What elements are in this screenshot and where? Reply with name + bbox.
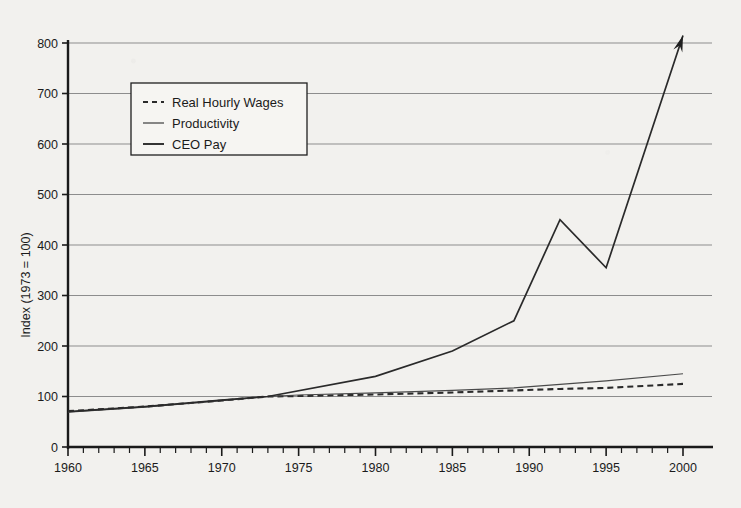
x-tick-label: 1980 xyxy=(362,461,390,475)
series-line-real-hourly-wages xyxy=(68,384,683,411)
legend-label-productivity: Productivity xyxy=(172,116,240,131)
y-tick-label: 100 xyxy=(37,390,58,404)
legend-label-real-hourly-wages: Real Hourly Wages xyxy=(172,95,284,110)
y-tick-label: 200 xyxy=(37,340,58,354)
x-tick-label: 1990 xyxy=(515,461,543,475)
y-axis: 0100200300400500600700800 xyxy=(37,37,68,455)
x-tick-label: 1965 xyxy=(131,461,159,475)
line-chart: 0100200300400500600700800 19601965197019… xyxy=(0,0,741,508)
x-tick-label: 1960 xyxy=(54,461,82,475)
y-tick-label: 300 xyxy=(37,289,58,303)
y-tick-label: 0 xyxy=(51,441,58,455)
y-tick-label: 600 xyxy=(37,138,58,152)
x-tick-label: 2000 xyxy=(669,461,697,475)
x-tick-label: 1970 xyxy=(208,461,236,475)
legend: Real Hourly WagesProductivityCEO Pay xyxy=(131,83,307,155)
y-axis-label: Index (1973 = 100) xyxy=(19,232,33,337)
y-tick-label: 400 xyxy=(37,239,58,253)
x-axis: 196019651970197519801985199019952000 xyxy=(54,447,713,475)
x-tick-label: 1995 xyxy=(592,461,620,475)
x-tick-label: 1985 xyxy=(438,461,466,475)
y-tick-label: 500 xyxy=(37,188,58,202)
y-tick-label: 700 xyxy=(37,87,58,101)
y-tick-label: 800 xyxy=(37,37,58,51)
chart-container: 0100200300400500600700800 19601965197019… xyxy=(0,0,741,508)
x-tick-label: 1975 xyxy=(285,461,313,475)
legend-label-ceo-pay: CEO Pay xyxy=(172,137,227,152)
series-line-productivity xyxy=(68,374,683,412)
